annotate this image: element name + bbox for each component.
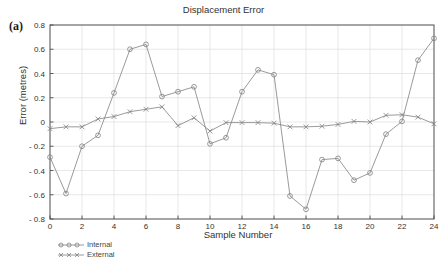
data-point-marker	[64, 191, 69, 196]
data-point-marker	[48, 155, 53, 160]
data-point-marker	[208, 141, 213, 146]
y-tick-label: 0.4	[34, 70, 46, 79]
y-tick-label: - 0.4	[29, 167, 46, 176]
y-tick-label: 0.2	[34, 94, 46, 103]
plot-area: 024681012141618202224- 0.8- 0.6- 0.4- 0.…	[0, 0, 447, 277]
y-tick-label: - 0.2	[29, 142, 46, 151]
data-point-marker	[256, 67, 261, 72]
data-point-marker	[192, 84, 197, 89]
data-point-marker	[432, 36, 437, 41]
legend: Internal External	[58, 240, 115, 260]
data-point-marker	[304, 207, 309, 212]
y-tick-label: 0	[41, 118, 46, 127]
x-tick-label: 22	[398, 222, 407, 231]
data-point-marker	[144, 42, 149, 47]
x-tick-label: 4	[112, 222, 117, 231]
x-tick-label: 0	[48, 222, 53, 231]
legend-label-external: External	[87, 250, 115, 260]
x-tick-label: 14	[270, 222, 279, 231]
x-tick-label: 24	[430, 222, 439, 231]
data-point-marker	[96, 133, 101, 138]
figure-container: (a) Displacement Error Sample Number Err…	[0, 0, 447, 277]
legend-marker-internal-icon	[58, 240, 84, 250]
data-point-marker	[336, 156, 341, 161]
data-point-marker	[160, 94, 165, 99]
data-point-marker	[320, 157, 325, 162]
x-tick-label: 12	[238, 222, 247, 231]
x-tick-label: 2	[80, 222, 85, 231]
data-point-marker	[288, 194, 293, 199]
y-tick-label: - 0.6	[29, 191, 46, 200]
x-tick-label: 6	[144, 222, 149, 231]
data-point-marker	[192, 115, 197, 120]
x-tick-label: 10	[206, 222, 215, 231]
x-tick-label: 18	[334, 222, 343, 231]
x-tick-label: 20	[366, 222, 375, 231]
data-point-marker	[112, 91, 117, 96]
gridlines	[50, 25, 434, 219]
legend-marker-external-icon	[58, 250, 84, 260]
data-point-marker	[224, 135, 229, 140]
data-point-marker	[176, 89, 181, 94]
data-point-marker	[272, 72, 277, 77]
data-point-marker	[352, 178, 357, 183]
x-tick-label: 8	[176, 222, 181, 231]
legend-item-internal: Internal	[58, 240, 115, 250]
data-point-marker	[368, 171, 373, 176]
data-point-marker	[384, 132, 389, 137]
data-point-marker	[80, 144, 85, 149]
data-point-marker	[416, 58, 421, 63]
data-point-marker	[240, 89, 245, 94]
data-point-marker	[400, 119, 405, 124]
x-tick-label: 16	[302, 222, 311, 231]
y-tick-label: - 0.8	[29, 215, 46, 224]
legend-item-external: External	[58, 250, 115, 260]
axis-tick-labels: 024681012141618202224- 0.8- 0.6- 0.4- 0.…	[29, 21, 439, 231]
data-point-marker	[128, 47, 133, 52]
y-tick-label: 0.6	[34, 45, 46, 54]
legend-label-internal: Internal	[87, 240, 112, 250]
y-tick-label: 0.8	[34, 21, 46, 30]
